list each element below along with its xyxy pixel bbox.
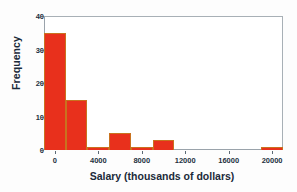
histogram-bar [44, 33, 66, 150]
histogram-bar [109, 133, 131, 150]
x-axis-tick-label: 8000 [122, 156, 162, 165]
x-axis-tick-label: 12000 [165, 156, 205, 165]
histogram-bar [131, 147, 153, 150]
histogram-chart: Frequency 010203040 04000800012000160002… [0, 0, 297, 192]
x-axis-title: Salary (thousands of dollars) [40, 170, 284, 182]
x-axis-tick-mark [142, 151, 143, 154]
plot-area [44, 16, 283, 150]
histogram-bar [153, 140, 175, 150]
x-axis-tick-labels: 040008000120001600020000 [44, 151, 283, 167]
x-axis-tick-label: 16000 [209, 156, 249, 165]
x-axis-tick-mark [98, 151, 99, 154]
x-axis-tick-mark [185, 151, 186, 154]
x-axis-tick-mark [55, 151, 56, 154]
histogram-bar [261, 147, 283, 150]
x-axis-tick-label: 20000 [252, 156, 292, 165]
x-axis-tick-mark [272, 151, 273, 154]
histogram-bar [87, 147, 109, 150]
x-axis-tick-label: 0 [35, 156, 75, 165]
histogram-bar [66, 100, 88, 150]
x-axis-tick-mark [229, 151, 230, 154]
x-axis-tick-label: 4000 [78, 156, 118, 165]
